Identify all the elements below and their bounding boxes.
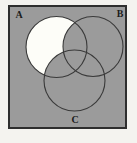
set-c-label: C	[71, 114, 78, 125]
set-a-label: A	[15, 9, 23, 20]
venn-diagram: A B C	[0, 0, 137, 143]
venn-diagram-canvas: A B C	[0, 0, 137, 143]
set-b-label: B	[117, 8, 124, 19]
